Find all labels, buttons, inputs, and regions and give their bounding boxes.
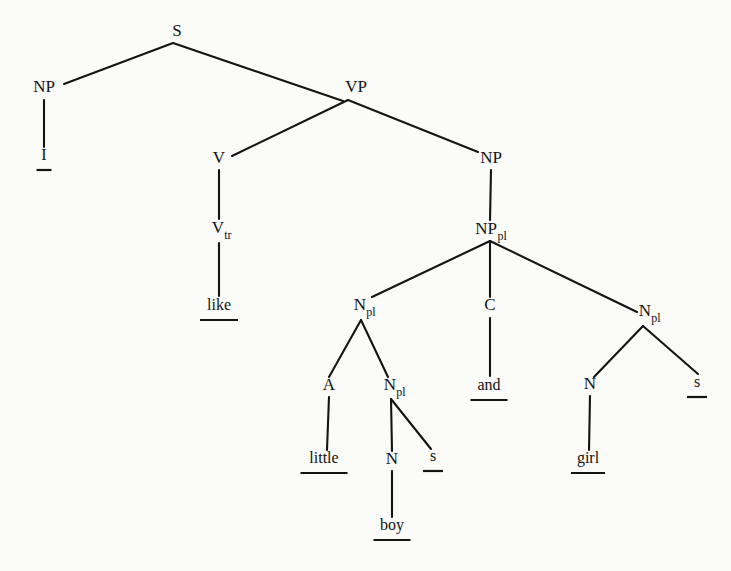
tree-leaf: s: [423, 447, 443, 471]
tree-canvas: SNPVPVNPVtrNPplNplCNplANplNN Ilikelittle…: [0, 0, 731, 571]
tree-branch: [372, 241, 490, 297]
node-label: V: [213, 148, 226, 167]
node-label: NP: [475, 219, 497, 238]
node-label: N: [386, 449, 398, 468]
tree-branch: [232, 100, 348, 156]
node-subscript: pl: [366, 305, 376, 319]
tree-branch: [64, 43, 173, 84]
leaf-word: little: [309, 449, 338, 466]
tree-leaf: like: [200, 296, 238, 320]
tree-node: Npl: [639, 301, 661, 325]
tree-leaf: s: [687, 373, 707, 397]
leaf-word: like: [207, 296, 231, 313]
tree-node: NP: [33, 77, 55, 96]
node-label: NP: [33, 77, 55, 96]
tree-node: NPpl: [475, 219, 507, 243]
node-label: N: [384, 375, 396, 394]
node-subscript: pl: [497, 229, 507, 243]
tree-leaf: and: [471, 376, 508, 400]
tree-node: Npl: [354, 295, 376, 319]
node-subscript: tr: [224, 228, 231, 242]
node-label: V: [212, 218, 225, 237]
tree-node: S: [172, 21, 181, 40]
leaf-word: s: [430, 447, 436, 464]
node-label: N: [639, 301, 651, 320]
leaf-word: s: [694, 373, 700, 390]
tree-branch: [361, 320, 388, 377]
node-label: VP: [345, 77, 367, 96]
tree-branch: [594, 326, 643, 377]
leaf-word: I: [41, 146, 46, 163]
tree-node: VP: [345, 77, 367, 96]
tree-branch: [173, 43, 343, 101]
node-label: C: [484, 295, 495, 314]
leaf-word: boy: [380, 516, 404, 534]
node-label: N: [354, 295, 366, 314]
tree-leaf: girl: [571, 449, 605, 473]
tree-node: N: [386, 449, 398, 468]
tree-branches: [44, 43, 698, 517]
tree-node: Vtr: [212, 218, 232, 242]
node-label: NP: [480, 148, 502, 167]
leaf-word: girl: [577, 449, 600, 467]
tree-leaf: I: [37, 146, 52, 170]
tree-node: V: [213, 148, 226, 167]
tree-branch: [490, 170, 491, 220]
node-label: A: [323, 375, 336, 394]
tree-node: NP: [480, 148, 502, 167]
tree-node: Npl: [384, 375, 406, 399]
tree-branch: [589, 396, 590, 450]
tree-nodes: SNPVPVNPVtrNPplNplCNplANplNN: [33, 21, 661, 468]
syntax-tree-figure: SNPVPVNPVtrNPplNplCNplANplNN Ilikelittle…: [0, 0, 731, 571]
node-label: S: [172, 21, 181, 40]
tree-branch: [348, 100, 478, 152]
leaf-word: and: [477, 376, 500, 393]
node-subscript: pl: [651, 311, 661, 325]
node-subscript: pl: [396, 385, 406, 399]
tree-branch: [490, 241, 637, 312]
tree-node: C: [484, 295, 495, 314]
tree-branch: [329, 320, 361, 377]
tree-leaf: little: [301, 449, 348, 473]
tree-branch: [391, 399, 431, 449]
tree-branch: [327, 397, 329, 450]
tree-node: A: [323, 375, 336, 394]
tree-branch: [643, 326, 698, 374]
tree-node: N: [584, 374, 596, 393]
node-label: N: [584, 374, 596, 393]
tree-leaf: boy: [374, 516, 411, 540]
tree-branch: [391, 399, 392, 451]
